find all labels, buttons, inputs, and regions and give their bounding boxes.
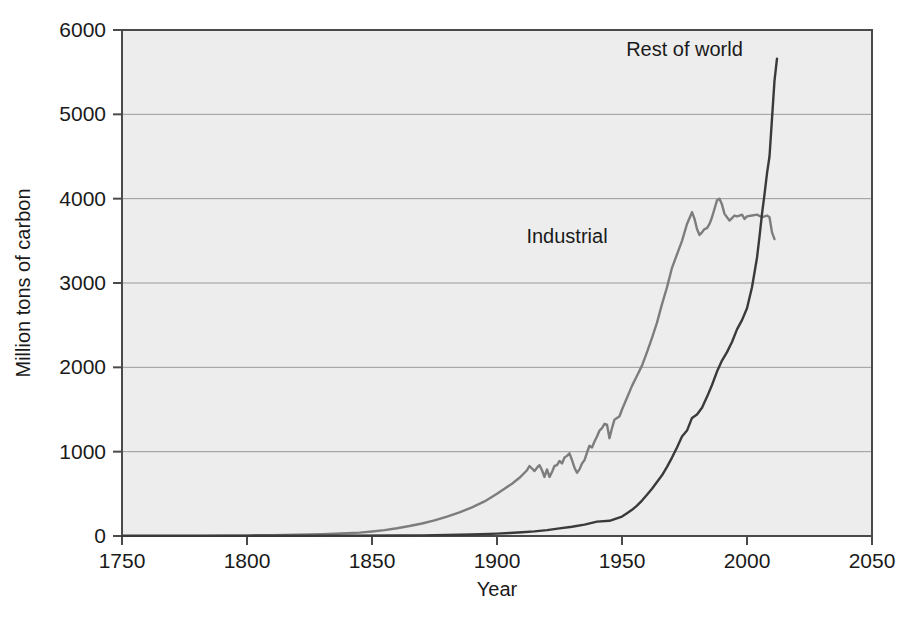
x-tick-label-2000: 2000 xyxy=(724,549,771,572)
x-tick-label-1750: 1750 xyxy=(99,549,146,572)
y-axis-title: Million tons of carbon xyxy=(12,189,34,378)
y-tick-label-6000: 6000 xyxy=(59,18,106,41)
x-axis-title: Year xyxy=(477,578,518,600)
y-tick-label-3000: 3000 xyxy=(59,271,106,294)
y-tick-label-0: 0 xyxy=(94,524,106,547)
y-tick-label-1000: 1000 xyxy=(59,440,106,463)
x-tick-label-1850: 1850 xyxy=(349,549,396,572)
x-tick-label-2050: 2050 xyxy=(849,549,896,572)
series-label-rest-of-world: Rest of world xyxy=(626,38,743,60)
figure-caption-fragment xyxy=(0,607,918,623)
y-tick-label-4000: 4000 xyxy=(59,187,106,210)
series-label-industrial: Industrial xyxy=(526,225,607,247)
x-tick-label-1900: 1900 xyxy=(474,549,521,572)
y-tick-label-2000: 2000 xyxy=(59,355,106,378)
y-tick-label-5000: 5000 xyxy=(59,102,106,125)
carbon-emissions-line-chart: 0100020003000400050006000 17501800185019… xyxy=(0,0,918,623)
x-tick-label-1800: 1800 xyxy=(224,549,271,572)
x-tick-label-1950: 1950 xyxy=(599,549,646,572)
figure-container: 0100020003000400050006000 17501800185019… xyxy=(0,0,918,623)
